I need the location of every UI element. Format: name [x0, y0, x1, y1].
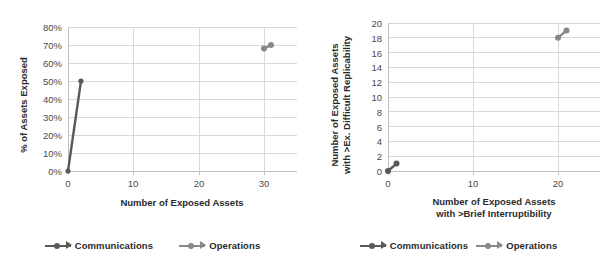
legend-label-communications: Communications — [75, 240, 153, 251]
chart-right-xtick-10: 10 — [468, 178, 479, 189]
chart-left-xtick-30: 30 — [259, 178, 270, 189]
chart-left-ytick-50: 50% — [43, 76, 63, 87]
chart-right-xtick-0: 0 — [385, 178, 390, 189]
chart-left-ytick-40: 40% — [43, 94, 63, 105]
chart-right-ytick-16: 16 — [371, 48, 382, 59]
chart-right-xtick-20: 20 — [553, 178, 564, 189]
chart-right-legend: Communications Operations — [306, 240, 611, 251]
legend-item-communications[interactable]: Communications — [360, 240, 468, 251]
chart-left-ytick-30: 30% — [43, 112, 63, 123]
chart-left-ytick-80: 80% — [43, 22, 63, 33]
chart-left-xtickmarks — [68, 171, 264, 175]
chart-right-ytick-2: 2 — [377, 151, 382, 162]
chart-right-plot: Number of Exposed Assets with >Ex. Diffi… — [306, 0, 611, 232]
chart-right-ytick-18: 18 — [371, 33, 382, 44]
chart-right-gridlines-h — [388, 23, 600, 156]
chart-right-ylabel-line2: with >Ex. Difficult Replicability — [341, 35, 352, 175]
legend-item-operations[interactable]: Operations — [476, 240, 557, 251]
chart-right-ytick-4: 4 — [377, 136, 382, 147]
legend-marker-communications-icon — [45, 241, 71, 251]
legend-item-communications[interactable]: Communications — [45, 240, 153, 251]
chart-right-ytick-12: 12 — [371, 77, 382, 88]
chart-left-ytick-70: 70% — [43, 40, 63, 51]
chart-left-xtick-20: 20 — [194, 178, 205, 189]
chart-right-ytick-6: 6 — [377, 122, 382, 133]
chart-right-ytick-10: 10 — [371, 92, 382, 103]
legend-label-operations: Operations — [209, 240, 260, 251]
chart-left-xtick-10: 10 — [128, 178, 139, 189]
chart-left-ytick-0: 0% — [48, 166, 62, 177]
chart-right-series-operations — [555, 27, 570, 40]
chart-left-xtick-0: 0 — [65, 178, 70, 189]
chart-left-ytick-60: 60% — [43, 58, 63, 69]
chart-right-ytick-8: 8 — [377, 107, 382, 118]
legend-label-operations: Operations — [506, 240, 557, 251]
chart-left-series-operations — [261, 42, 274, 52]
legend-marker-operations-icon — [476, 241, 502, 251]
chart-right-ytick-20: 20 — [371, 18, 382, 29]
chart-right-ytick-14: 14 — [371, 62, 382, 73]
chart-right-xlabel-line2: with >Brief Interruptibility — [435, 208, 552, 219]
chart-left-ytick-20: 20% — [43, 130, 63, 141]
chart-left-xlabel: Number of Exposed Assets — [120, 197, 243, 208]
chart-left-ytick-10: 10% — [43, 148, 63, 159]
chart-left-legend: Communications Operations — [0, 240, 305, 251]
chart-right-ylabel-line1: Number of Exposed Assets — [329, 43, 340, 166]
chart-right-series-communications — [385, 161, 400, 174]
figure-root: % of Assets Exposed 80% 70% 60% 50% 40% … — [0, 0, 611, 268]
chart-right-svg: Number of Exposed Assets with >Ex. Diffi… — [306, 0, 611, 232]
chart-right-ytick-0: 0 — [377, 166, 382, 177]
legend-marker-communications-icon — [360, 241, 386, 251]
chart-panel-right: Number of Exposed Assets with >Ex. Diffi… — [306, 0, 611, 268]
chart-left-gridlines-h — [68, 27, 297, 153]
chart-right-xlabel-line1: Number of Exposed Assets — [432, 196, 555, 207]
chart-panel-left: % of Assets Exposed 80% 70% 60% 50% 40% … — [0, 0, 305, 268]
chart-left-svg: % of Assets Exposed 80% 70% 60% 50% 40% … — [0, 0, 305, 232]
chart-right-xtickmarks — [388, 171, 558, 175]
legend-item-operations[interactable]: Operations — [179, 240, 260, 251]
chart-left-plot: % of Assets Exposed 80% 70% 60% 50% 40% … — [0, 0, 305, 232]
legend-marker-operations-icon — [179, 241, 205, 251]
legend-label-communications: Communications — [390, 240, 468, 251]
chart-left-ylabel: % of Assets Exposed — [18, 57, 29, 153]
